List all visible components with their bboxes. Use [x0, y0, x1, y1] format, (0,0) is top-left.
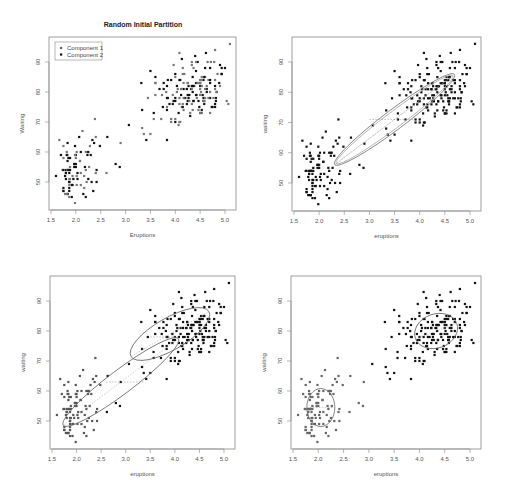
data-point [201, 333, 203, 335]
data-point [71, 196, 73, 198]
data-point [446, 333, 448, 335]
data-point [161, 94, 163, 96]
data-point [154, 94, 156, 96]
data-point [196, 97, 198, 99]
data-point [419, 121, 421, 123]
data-point [427, 109, 429, 111]
data-point [457, 97, 459, 99]
x-tick-label: 4.0 [171, 456, 180, 462]
data-point [66, 154, 68, 156]
data-point [332, 393, 334, 395]
data-point [75, 441, 77, 443]
data-point [305, 426, 307, 428]
data-point [362, 167, 364, 169]
data-point [187, 336, 189, 338]
data-point [403, 88, 405, 90]
data-point [208, 306, 210, 308]
data-point [90, 154, 92, 156]
data-point [339, 182, 341, 184]
data-point [455, 61, 457, 63]
data-point [424, 333, 426, 335]
data-point [399, 82, 401, 84]
data-point [444, 82, 446, 84]
data-point [77, 417, 79, 419]
x-tick-label: 1.5 [289, 456, 298, 462]
data-point [204, 88, 206, 90]
data-point [84, 166, 86, 168]
data-point [80, 151, 82, 153]
data-point [318, 423, 320, 425]
data-point [191, 61, 193, 63]
data-point [154, 333, 156, 335]
data-point [153, 118, 155, 120]
data-point [305, 158, 307, 160]
data-point [445, 315, 447, 317]
scatter-panel-1: 1.52.02.53.03.54.04.55.05060708090Erupti… [19, 37, 236, 238]
y-tick-label: 50 [277, 417, 283, 424]
x-tick-label: 2.5 [339, 456, 348, 462]
data-point [225, 339, 227, 341]
data-point [80, 172, 82, 174]
data-point [75, 166, 77, 168]
x-tick-label: 3.5 [390, 218, 399, 224]
data-point [444, 351, 446, 353]
data-point [84, 405, 86, 407]
data-point [310, 429, 312, 431]
data-point [319, 411, 321, 413]
data-point [318, 158, 320, 160]
data-point [402, 327, 404, 329]
data-point [433, 333, 435, 335]
data-point [454, 306, 456, 308]
data-point [153, 112, 155, 114]
data-point [86, 420, 88, 422]
y-tick-label: 50 [278, 179, 284, 186]
data-point [189, 351, 191, 353]
data-point [393, 134, 395, 136]
data-point [210, 61, 212, 63]
data-point [86, 154, 88, 156]
data-point [443, 106, 445, 108]
data-point [310, 143, 312, 145]
data-point [444, 330, 446, 332]
data-point [197, 348, 199, 350]
data-point [348, 411, 350, 413]
data-point [197, 109, 199, 111]
data-point [426, 345, 428, 347]
data-point [474, 43, 476, 45]
data-point [141, 109, 143, 111]
data-point [191, 315, 193, 317]
data-point [315, 417, 317, 419]
data-point [195, 336, 197, 338]
data-point [154, 315, 156, 317]
data-point [195, 61, 197, 63]
data-point [412, 342, 414, 344]
data-point [201, 79, 203, 81]
data-point [334, 378, 336, 380]
data-point [466, 73, 468, 75]
data-point [409, 91, 411, 93]
data-point [305, 429, 307, 431]
data-point [326, 405, 328, 407]
data-point [106, 136, 108, 138]
data-point [327, 408, 329, 410]
data-point [410, 85, 412, 87]
data-point [410, 378, 412, 380]
data-point [404, 357, 406, 359]
y-tick-label: 50 [36, 417, 42, 424]
data-point [75, 163, 77, 165]
data-point [416, 94, 418, 96]
data-point [459, 103, 461, 105]
data-point [179, 79, 181, 81]
data-point [421, 327, 423, 329]
data-point [451, 300, 453, 302]
data-point [209, 82, 211, 84]
data-point [464, 85, 466, 87]
x-tick-label: 3.0 [365, 456, 374, 462]
data-point [463, 82, 465, 84]
data-point [386, 372, 388, 374]
data-point [219, 64, 221, 66]
data-points [298, 43, 476, 206]
data-point [200, 324, 202, 326]
data-point [411, 318, 413, 320]
data-point [166, 378, 168, 380]
